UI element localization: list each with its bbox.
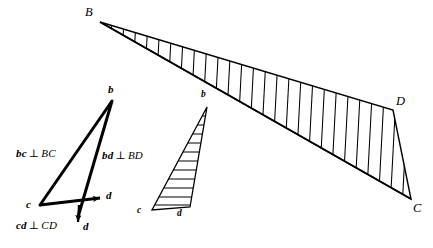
annotation-cd-segment: CD xyxy=(41,219,57,231)
vector-bd-arrowhead xyxy=(78,205,79,222)
vertex-label-D: D xyxy=(396,95,405,108)
annotation-bd-segment: BD xyxy=(128,149,143,161)
vector-point-label-c: c xyxy=(26,199,31,210)
vector-cd xyxy=(40,198,100,205)
perpendicular-icon: ⊥ xyxy=(27,219,42,231)
perpendicular-icon: ⊥ xyxy=(113,149,128,161)
small-point-label-c: c xyxy=(137,206,141,216)
space-diagram-group xyxy=(100,0,425,248)
annotation-bc-vector: bc xyxy=(16,147,27,159)
small-point-label-d: d xyxy=(177,209,182,219)
annotation-bc-perp-BC: bc⊥BC xyxy=(16,148,56,159)
annotation-bd-vector: bd xyxy=(102,149,113,161)
space-diagram-edge-BC xyxy=(100,22,411,199)
small-point-label-b: b xyxy=(201,90,206,100)
annotation-cd-vector: cd xyxy=(16,219,27,231)
vector-point-label-d-bottom: d xyxy=(83,221,89,232)
perpendicular-icon: ⊥ xyxy=(27,147,42,159)
vector-point-label-b: b xyxy=(108,84,114,95)
vector-diagram-group xyxy=(40,101,112,222)
annotation-bd-perp-BD: bd⊥BD xyxy=(102,150,143,161)
figure-vector-graphics xyxy=(0,0,433,248)
vector-point-label-d-right: d xyxy=(106,190,112,201)
figure-canvas: B D C b c d d b c d bc⊥BC bd⊥BD cd⊥CD xyxy=(0,0,433,248)
annotation-bc-segment: BC xyxy=(41,147,55,159)
small-triangle-hatch-lines xyxy=(140,116,225,205)
annotation-cd-perp-CD: cd⊥CD xyxy=(16,220,57,231)
small-triangle-outline xyxy=(152,107,207,210)
vertex-label-B: B xyxy=(85,6,93,19)
vertex-label-C: C xyxy=(413,202,421,215)
small-triangle-group xyxy=(140,107,225,210)
small-triangle-hatching xyxy=(140,116,225,205)
